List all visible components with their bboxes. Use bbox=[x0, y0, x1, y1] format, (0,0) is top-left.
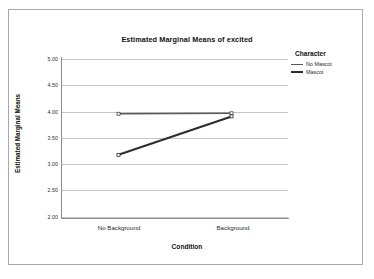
legend-title: Character bbox=[295, 50, 369, 57]
y-axis-title: Estimated Marginal Means bbox=[14, 79, 21, 189]
legend: Character No Mascot Mascot bbox=[291, 50, 369, 77]
legend-swatch-icon bbox=[291, 71, 303, 73]
chart-title: Estimated Marginal Means of excited bbox=[0, 35, 374, 44]
y-tick-label: 4.50 bbox=[28, 82, 58, 88]
legend-swatch-icon bbox=[291, 64, 303, 65]
gridline bbox=[62, 112, 288, 113]
gridline bbox=[62, 85, 288, 86]
plot-area bbox=[62, 59, 288, 217]
x-axis-title: Condition bbox=[0, 243, 374, 250]
legend-item-mascot[interactable]: Mascot bbox=[291, 69, 369, 75]
y-tick-label: 3.00 bbox=[28, 161, 58, 167]
y-tick-label: 5.00 bbox=[28, 56, 58, 62]
gridline bbox=[62, 217, 288, 218]
legend-label: No Mascot bbox=[306, 61, 332, 67]
x-axis-line bbox=[61, 218, 289, 219]
gridline bbox=[62, 164, 288, 165]
y-tick-label: 3.50 bbox=[28, 135, 58, 141]
y-tick-label: 2.50 bbox=[28, 187, 58, 193]
y-tick-label: 2.00 bbox=[28, 214, 58, 220]
y-tick-label: 4.00 bbox=[28, 109, 58, 115]
gridline bbox=[62, 59, 288, 60]
gridline bbox=[62, 138, 288, 139]
gridline bbox=[62, 190, 288, 191]
legend-item-no-mascot[interactable]: No Mascot bbox=[291, 61, 369, 67]
x-tick-label-no-background: No Background bbox=[59, 224, 179, 231]
legend-label: Mascot bbox=[306, 69, 323, 75]
x-tick-label-background: Background bbox=[173, 224, 293, 231]
